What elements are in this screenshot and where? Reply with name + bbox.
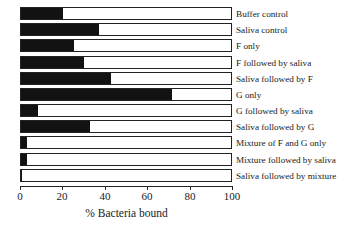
category-label: Saliva followed by G: [236, 122, 314, 132]
category-label: F followed by saliva: [236, 58, 311, 68]
category-label: Saliva followed by F: [236, 74, 313, 84]
bar-row: [20, 56, 232, 69]
category-label: G followed by saliva: [236, 106, 313, 116]
bar-fill: [21, 154, 27, 165]
bar-track: [20, 39, 232, 52]
x-tick-label: 80: [170, 190, 210, 203]
bar-row: [20, 136, 232, 149]
bar-row: [20, 23, 232, 36]
bar-fill: [21, 89, 172, 100]
category-label: G only: [236, 90, 261, 100]
bar-fill: [21, 8, 63, 19]
category-label: Saliva followed by mixture: [236, 171, 336, 181]
bar-row: [20, 169, 232, 182]
bar-track: [20, 153, 232, 166]
bar-track: [20, 136, 232, 149]
x-tick-label: 20: [42, 190, 82, 203]
bar-fill: [21, 170, 22, 181]
bar-fill: [21, 105, 38, 116]
category-label: Buffer control: [236, 9, 288, 19]
plot-area: [20, 7, 232, 185]
category-label: Mixture followed by saliva: [236, 155, 336, 165]
x-tick-label: 40: [85, 190, 125, 203]
category-label: Mixture of F and G only: [236, 138, 326, 148]
bar-row: [20, 72, 232, 85]
bar-track: [20, 169, 232, 182]
bar-track: [20, 88, 232, 101]
bar-track: [20, 120, 232, 133]
category-label: F only: [236, 41, 260, 51]
bar-track: [20, 56, 232, 69]
bar-row: [20, 39, 232, 52]
bar-chart: 020406080100 % Bacteria bound Buffer con…: [0, 0, 341, 229]
bar-fill: [21, 24, 99, 35]
bar-fill: [21, 73, 111, 84]
bar-track: [20, 23, 232, 36]
bar-track: [20, 72, 232, 85]
bar-fill: [21, 40, 74, 51]
bar-row: [20, 88, 232, 101]
x-axis-line: [20, 186, 233, 187]
category-label-list: Buffer controlSaliva controlF onlyF foll…: [236, 7, 341, 185]
bar-track: [20, 104, 232, 117]
bar-fill: [21, 137, 27, 148]
x-tick-label: 0: [0, 190, 40, 203]
bar-row: [20, 7, 232, 20]
bar-fill: [21, 121, 90, 132]
bar-track: [20, 7, 232, 20]
x-tick-label: 100: [212, 190, 252, 203]
x-axis-title: % Bacteria bound: [20, 206, 233, 220]
x-tick-label: 60: [127, 190, 167, 203]
bar-fill: [21, 57, 84, 68]
bar-row: [20, 104, 232, 117]
category-label: Saliva control: [236, 25, 287, 35]
bar-row: [20, 153, 232, 166]
bar-row: [20, 120, 232, 133]
